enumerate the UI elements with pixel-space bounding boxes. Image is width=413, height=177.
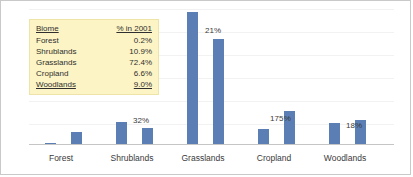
table-row: Grasslands 72.4% bbox=[36, 57, 152, 68]
column-header-percent: % in 2001 bbox=[98, 23, 152, 35]
x-label-grasslands: Grasslands bbox=[182, 153, 225, 163]
bar-grasslands-series1[interactable] bbox=[187, 12, 198, 144]
chart-container: 32% 21% 175% 18% Forest Shrublands Grass… bbox=[0, 0, 411, 175]
data-label-grasslands: 21% bbox=[205, 26, 221, 35]
x-label-shrublands: Shrublands bbox=[110, 153, 153, 163]
cell-percent: 10.9% bbox=[98, 46, 152, 57]
bar-grasslands-series2[interactable] bbox=[213, 39, 224, 144]
data-label-shrublands: 32% bbox=[133, 116, 149, 125]
bar-forest-series2[interactable] bbox=[71, 132, 82, 144]
table-row: Cropland 6.6% bbox=[36, 68, 152, 79]
cell-percent: 6.6% bbox=[98, 68, 152, 79]
x-axis-labels: Forest Shrublands Grasslands Cropland Wo… bbox=[29, 153, 394, 167]
table-row: Woodlands 9.0% bbox=[36, 79, 152, 90]
column-header-biome: Biome bbox=[36, 23, 98, 35]
x-label-woodlands: Woodlands bbox=[324, 153, 366, 163]
x-axis-line bbox=[29, 144, 394, 145]
bar-shrublands-series1[interactable] bbox=[116, 122, 127, 144]
data-label-cropland: 175% bbox=[270, 114, 291, 123]
biome-data-table: Biome % in 2001 Forest 0.2% Shrublands 1… bbox=[29, 19, 159, 95]
cell-percent: 9.0% bbox=[98, 79, 152, 90]
cell-biome: Cropland bbox=[36, 68, 98, 79]
x-label-forest: Forest bbox=[49, 153, 73, 163]
bar-cropland-series1[interactable] bbox=[258, 129, 269, 144]
gridline bbox=[29, 9, 394, 10]
cell-biome: Woodlands bbox=[36, 79, 98, 90]
gridline bbox=[29, 101, 394, 102]
cell-percent: 72.4% bbox=[98, 57, 152, 68]
table-row: Shrublands 10.9% bbox=[36, 46, 152, 57]
bar-woodlands-series1[interactable] bbox=[329, 123, 340, 144]
table-header-row: Biome % in 2001 bbox=[36, 23, 152, 35]
cell-biome: Shrublands bbox=[36, 46, 98, 57]
cell-biome: Grasslands bbox=[36, 57, 98, 68]
bar-forest-series1[interactable] bbox=[45, 143, 56, 144]
cell-biome: Forest bbox=[36, 35, 98, 46]
x-label-cropland: Cropland bbox=[257, 153, 292, 163]
bar-shrublands-series2[interactable] bbox=[142, 128, 153, 144]
table-row: Forest 0.2% bbox=[36, 35, 152, 46]
cell-percent: 0.2% bbox=[98, 35, 152, 46]
data-label-woodlands: 18% bbox=[346, 121, 362, 130]
